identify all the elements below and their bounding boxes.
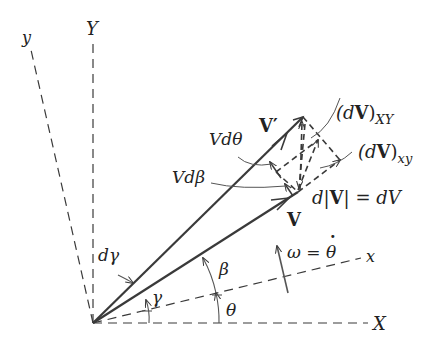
X-axis-label: X bbox=[371, 313, 387, 334]
label-omega: ω = θ bbox=[287, 242, 336, 262]
leader-dV-xy bbox=[320, 152, 352, 168]
label-V: V bbox=[286, 209, 302, 230]
label-theta: θ bbox=[226, 300, 236, 320]
small-arrows bbox=[270, 162, 293, 196]
label-V-dbeta: Vdβ bbox=[172, 167, 205, 187]
vector-V-prime bbox=[93, 117, 303, 323]
label-gamma: γ bbox=[152, 287, 163, 307]
label-V-dtheta: Vdθ bbox=[209, 129, 242, 149]
differential-construction bbox=[276, 117, 340, 192]
label-beta: β bbox=[218, 259, 229, 279]
x-axis-label: x bbox=[366, 247, 375, 266]
omega-dot: · bbox=[330, 227, 336, 246]
dV-XY-diag bbox=[303, 117, 340, 160]
beta-arc bbox=[203, 258, 216, 293]
leader-V-dbeta bbox=[211, 183, 286, 187]
label-d-gamma: dγ bbox=[98, 245, 120, 265]
vectors bbox=[93, 117, 303, 323]
label-dV-XY: (dV)XY bbox=[336, 102, 395, 127]
Y-axis-label: Y bbox=[86, 18, 100, 39]
y-axis-label: y bbox=[21, 28, 32, 47]
label-dV-xy: (dV)xy bbox=[358, 141, 413, 166]
vector-diagram: Y X y x V′ V Vdθ Vdβ (dV)XY bbox=[0, 0, 436, 353]
d-gamma-pointer bbox=[118, 275, 133, 283]
theta-arc bbox=[216, 293, 219, 323]
y-axis bbox=[31, 50, 93, 323]
label-V-prime: V′ bbox=[258, 115, 278, 136]
angle-arcs bbox=[118, 258, 222, 323]
label-d-magnitude-V: d|V| = dV bbox=[312, 187, 403, 209]
vector-V bbox=[93, 192, 298, 323]
